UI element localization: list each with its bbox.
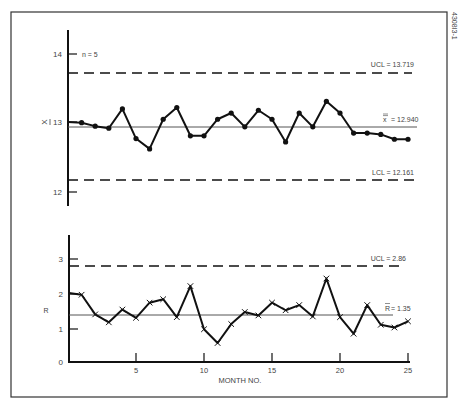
r-data-point (133, 315, 139, 321)
xbar-tick-label: 13 (53, 118, 62, 127)
r-tick-label: 0 (59, 358, 64, 367)
xbar-data-point (256, 108, 261, 113)
xbar-ylabel: X (40, 119, 50, 125)
xbar-tick-label: 14 (53, 50, 62, 59)
r-tick-label: 1 (59, 325, 64, 334)
x-tick-label: 15 (268, 366, 276, 375)
xbar-data-point (324, 99, 329, 104)
svg-text:X: X (40, 119, 49, 125)
xbar-series-line (68, 101, 408, 149)
xbar-tick-label: 12 (53, 188, 62, 197)
xbar-data-point (378, 132, 383, 137)
xbar-data-point (297, 110, 302, 115)
xbar-data-point (229, 110, 234, 115)
r-data-point (215, 340, 221, 346)
r-data-point (120, 307, 126, 313)
xbar-lcl-label: LCL = 12.161 (372, 169, 414, 176)
xbar-data-point (337, 110, 342, 115)
xbar-ucl-label: UCL = 13.719 (371, 61, 414, 68)
xbar-data-point (392, 137, 397, 142)
x-ticks: 510152025 (134, 353, 412, 375)
xbar-chart: 14 13 12 X n = 5 UCL = 13.719 x = 12.940… (40, 30, 419, 206)
xbar-data-point (106, 126, 111, 131)
xbar-data-point (351, 130, 356, 135)
svg-text:x: x (383, 116, 387, 123)
xbar-data-point (269, 117, 274, 122)
xbar-data-point (310, 124, 315, 129)
xbar-data-point (188, 133, 193, 138)
xbar-data-point (201, 133, 206, 138)
xbar-data-point (147, 146, 152, 151)
svg-text:= 1.35: = 1.35 (391, 305, 411, 312)
r-series-line (69, 279, 408, 344)
r-tick-label: 2 (59, 290, 64, 299)
x-tick-label: 5 (134, 366, 138, 375)
xbar-data-point (174, 105, 179, 110)
r-data-point (228, 321, 234, 327)
r-ylabel: R (43, 307, 48, 314)
control-chart-figure: 4308I3-1 14 13 12 X n = 5 UCL = 13.719 x… (0, 0, 465, 406)
xbar-center-label: x = 12.940 (383, 114, 419, 123)
x-tick-label: 25 (404, 366, 412, 375)
r-chart: 3 2 1 0 R 510152025 MONTH NO. UCL = 2.86… (43, 235, 412, 385)
x-axis-label: MONTH NO. (219, 376, 262, 385)
r-tick-label: 3 (59, 255, 64, 264)
xbar-data-point (93, 124, 98, 129)
figure-frame (11, 12, 447, 397)
xbar-data-point (133, 136, 138, 141)
xbar-data-point (283, 139, 288, 144)
svg-text:R: R (385, 305, 390, 312)
r-markers (79, 276, 411, 346)
x-tick-label: 10 (200, 366, 208, 375)
figure-id: 4308I3-1 (451, 12, 458, 40)
svg-text:= 12.940: = 12.940 (391, 116, 419, 123)
x-tick-label: 20 (336, 366, 344, 375)
r-ucl-label: UCL = 2.86 (371, 255, 406, 262)
r-center-label: R = 1.35 (385, 304, 411, 313)
sample-size-label: n = 5 (82, 51, 98, 58)
xbar-data-point (120, 106, 125, 111)
xbar-data-point (215, 117, 220, 122)
xbar-data-point (242, 124, 247, 129)
xbar-data-point (161, 117, 166, 122)
xbar-data-point (405, 137, 410, 142)
xbar-data-point (79, 120, 84, 125)
xbar-data-point (365, 130, 370, 135)
